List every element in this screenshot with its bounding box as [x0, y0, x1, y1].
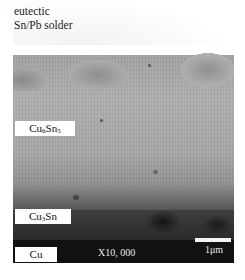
cu6sn5-label: Cu6Sn5 — [15, 121, 75, 136]
particle — [153, 170, 158, 174]
particle — [100, 119, 103, 122]
cu3sn-label: Cu3Sn — [15, 209, 71, 224]
solder-label-line1: eutectic — [14, 4, 50, 18]
magnification-label: X10, 000 — [98, 247, 135, 258]
scalloped-interface — [13, 30, 234, 90]
scale-bar — [195, 238, 231, 242]
particle — [73, 195, 79, 200]
solder-label-line2: Sn/Pb solder — [14, 18, 72, 32]
cu-label: Cu — [15, 247, 57, 262]
scale-bar-label: 1μm — [205, 244, 223, 255]
particle — [148, 64, 151, 67]
